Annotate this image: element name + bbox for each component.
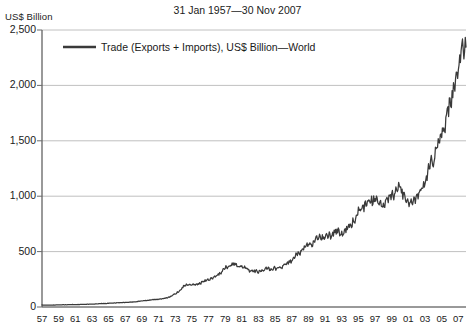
y-axis-tick-label: 2,500 (0, 23, 36, 35)
x-axis-tick-label: 79 (216, 313, 234, 324)
x-axis-tick-label: 07 (449, 313, 467, 324)
x-axis-tick-label: 97 (366, 313, 384, 324)
x-axis-tick-label: 81 (233, 313, 251, 324)
x-axis-tick-label: 99 (383, 313, 401, 324)
x-axis-tick-label: 03 (416, 313, 434, 324)
x-axis-tick-label: 05 (433, 313, 451, 324)
x-axis-tick-label: 75 (183, 313, 201, 324)
y-axis-tick-marks (37, 30, 42, 307)
x-axis-tick-label: 69 (133, 313, 151, 324)
x-axis-tick-label: 93 (333, 313, 351, 324)
x-axis-tick-label: 61 (66, 313, 84, 324)
x-axis-tick-label: 01 (399, 313, 417, 324)
x-axis-tick-label: 57 (33, 313, 51, 324)
y-axis-tick-label: 0 (0, 300, 36, 312)
plot-frame (42, 30, 466, 307)
x-axis-tick-label: 87 (283, 313, 301, 324)
x-axis-tick-label: 67 (116, 313, 134, 324)
x-axis-tick-label: 73 (166, 313, 184, 324)
y-axis-tick-label: 1,500 (0, 134, 36, 146)
x-axis-tick-label: 83 (249, 313, 267, 324)
x-axis-tick-label: 63 (83, 313, 101, 324)
data-series-line (42, 37, 466, 305)
x-axis-tick-label: 95 (349, 313, 367, 324)
series-trade-world (42, 37, 466, 305)
x-axis-tick-label: 59 (50, 313, 68, 324)
x-axis-tick-label: 71 (150, 313, 168, 324)
x-axis-tick-label: 77 (200, 313, 218, 324)
y-axis-tick-label: 1,000 (0, 189, 36, 201)
chart-container: US$ Billion 31 Jan 1957—30 Nov 2007 Trad… (0, 0, 475, 336)
x-axis-tick-label: 89 (299, 313, 317, 324)
gridlines (42, 30, 466, 307)
legend-label: Trade (Exports + Imports), US$ Billion—W… (101, 41, 315, 53)
y-axis-tick-label: 500 (0, 245, 36, 257)
y-axis-tick-label: 2,000 (0, 78, 36, 90)
x-axis-tick-label: 85 (266, 313, 284, 324)
x-axis-tick-label: 65 (100, 313, 118, 324)
x-axis-tick-label: 91 (316, 313, 334, 324)
